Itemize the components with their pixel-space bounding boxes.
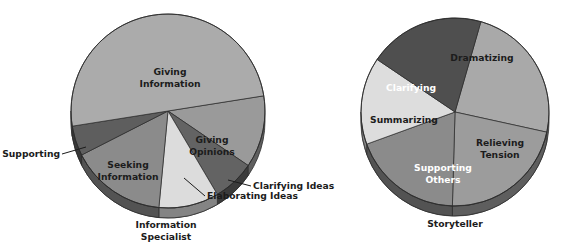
pie-chart-figure: GivingOpinionsSeekingInformationGivingIn…	[0, 0, 563, 251]
slice-label-clarifying: Clarifying	[386, 82, 436, 93]
charts-svg-canvas: GivingOpinionsSeekingInformationGivingIn…	[0, 0, 563, 251]
callout-label-supporting: Supporting	[2, 148, 60, 159]
caption-information-specialist: InformationSpecialist	[136, 219, 197, 242]
slice-label-dramatizing: Dramatizing	[450, 52, 513, 63]
caption-storyteller: Storyteller	[427, 218, 483, 229]
slice-label-giving-opinions: GivingOpinions	[189, 134, 235, 157]
callout-label-elaborating-ideas: Elaborating Ideas	[207, 190, 299, 201]
pie-chart-information-specialist: GivingOpinionsSeekingInformationGivingIn…	[71, 14, 265, 218]
pie-chart-storyteller: DramatizingRelievingTensionSupportingOth…	[361, 18, 549, 216]
slice-label-relieving-tension: RelievingTension	[476, 137, 524, 160]
slice-label-summarizing: Summarizing	[370, 114, 438, 125]
